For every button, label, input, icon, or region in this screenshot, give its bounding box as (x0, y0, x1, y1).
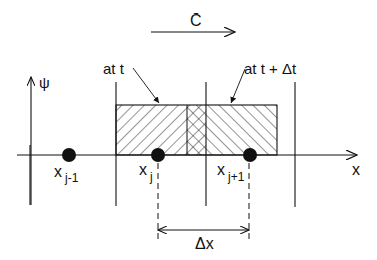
finite-volume-advection-diagram: C̄ ψ x at t at t + Δt xj-1 xj xj+1 Δx (0, 0, 377, 260)
psi-axis-label: ψ (39, 74, 50, 91)
x-axis-label: x (352, 161, 360, 178)
spacing-label: Δx (195, 235, 214, 252)
node-j-plus-1 (243, 148, 257, 162)
node-j (151, 148, 165, 162)
node-label-j-minus-1: xj-1 (54, 163, 79, 185)
node-j-minus-1 (62, 148, 76, 162)
leader-at-t-dt (231, 69, 245, 103)
label-at-t: at t (103, 60, 125, 77)
leader-at-t (133, 68, 159, 103)
label-at-t-dt: at t + Δt (244, 60, 297, 77)
velocity-label: C̄ (190, 12, 202, 29)
node-label-j-plus-1: xj+1 (217, 161, 245, 184)
node-label-j: xj (139, 161, 153, 184)
cell-at-t-dt-hatch (187, 105, 277, 155)
